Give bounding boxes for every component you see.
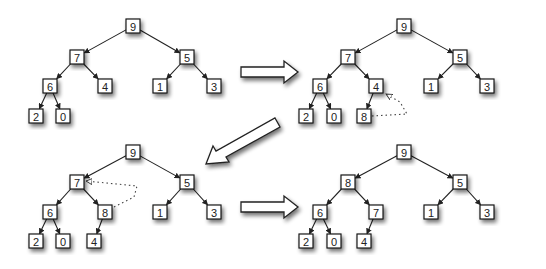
heap-node: 3 <box>207 79 221 93</box>
heap-node: 0 <box>327 234 341 248</box>
arrow-1-to-2-arrow-icon <box>241 61 298 83</box>
node-value: 6 <box>47 81 53 93</box>
heap-node: 4 <box>98 79 112 93</box>
heap-node: 9 <box>126 145 140 159</box>
tree-edge <box>323 219 330 234</box>
heap-node: 7 <box>70 50 84 64</box>
node-value: 1 <box>428 81 434 93</box>
tree-edge <box>466 189 480 205</box>
heap-node: 3 <box>207 205 221 219</box>
heap-node: 1 <box>424 205 438 219</box>
node-value: 9 <box>401 21 407 33</box>
tree-edge <box>467 64 481 79</box>
node-value: 5 <box>457 52 463 64</box>
heap-node: 1 <box>424 79 438 93</box>
node-value: 1 <box>157 81 163 93</box>
tree-edge <box>140 156 180 178</box>
node-value: 8 <box>102 207 108 219</box>
node-value: 4 <box>102 81 108 93</box>
tree-edge <box>355 156 397 178</box>
heap-node: 7 <box>341 50 355 64</box>
tree-edge <box>323 93 330 109</box>
node-value: 5 <box>457 177 463 189</box>
tree-edge <box>57 189 71 205</box>
node-value: 2 <box>33 236 39 248</box>
node-value: 3 <box>484 81 490 93</box>
tree-edge <box>193 189 207 205</box>
tree-edge <box>167 64 181 79</box>
node-value: 0 <box>60 111 66 123</box>
swap-indicator-arrow-icon <box>86 181 137 207</box>
tree-edge <box>438 64 453 79</box>
heap-node: 4 <box>369 79 383 93</box>
node-value: 0 <box>331 111 337 123</box>
node-value: 3 <box>484 207 490 219</box>
tree-edge <box>84 189 99 205</box>
arrow-3-to-4-arrow-icon <box>241 196 298 218</box>
node-value: 5 <box>184 52 190 64</box>
tree-edge <box>411 156 453 178</box>
heap-node: 1 <box>153 205 167 219</box>
heap-node: 9 <box>397 19 411 33</box>
node-value: 1 <box>428 207 434 219</box>
node-value: 0 <box>331 236 337 248</box>
node-value: 6 <box>317 207 323 219</box>
node-value: 4 <box>361 236 367 248</box>
tree-edge <box>355 64 369 79</box>
node-value: 1 <box>157 207 163 219</box>
node-value: 4 <box>91 236 97 248</box>
tree-edge <box>367 93 373 109</box>
heap-node: 1 <box>153 79 167 93</box>
node-value: 4 <box>373 81 379 93</box>
node-value: 3 <box>211 81 217 93</box>
heap-node: 2 <box>29 109 43 123</box>
tree-edge <box>310 219 317 234</box>
heap-node: 0 <box>327 109 341 123</box>
tree-edge <box>40 219 47 234</box>
tree-edge <box>39 93 46 109</box>
tree-edge <box>411 30 453 53</box>
heap-insertion-diagram: 975641320975641320897568132049856713204 <box>0 0 546 269</box>
tree-edge <box>367 219 373 234</box>
node-value: 0 <box>60 236 66 248</box>
heap-node: 4 <box>87 234 101 248</box>
node-value: 6 <box>47 207 53 219</box>
tree-edge <box>84 156 126 178</box>
tree-edge <box>57 64 71 79</box>
heap-node: 7 <box>369 205 383 219</box>
tree-edge <box>140 30 180 53</box>
heap-node: 9 <box>397 145 411 159</box>
heap-node: 0 <box>56 234 70 248</box>
tree-edge <box>327 189 342 205</box>
tree-step-4: 9856713204 <box>299 145 494 248</box>
node-value: 7 <box>373 207 379 219</box>
tree-edge <box>53 93 60 109</box>
heap-node: 6 <box>43 205 57 219</box>
tree-edge <box>438 189 453 205</box>
swap-indicator-arrow-icon <box>372 94 407 116</box>
tree-edge <box>309 93 316 109</box>
node-value: 9 <box>130 21 136 33</box>
heap-node: 5 <box>453 175 467 189</box>
tree-edge <box>167 189 181 205</box>
node-value: 2 <box>303 236 309 248</box>
tree-edge <box>97 219 103 234</box>
heap-node: 8 <box>341 175 355 189</box>
heap-node: 5 <box>453 50 467 64</box>
heap-node: 5 <box>180 175 194 189</box>
heap-node: 3 <box>480 205 494 219</box>
node-value: 3 <box>211 207 217 219</box>
tree-step-1: 975641320 <box>29 19 221 123</box>
heap-node: 7 <box>70 175 84 189</box>
heap-node: 4 <box>357 234 371 248</box>
node-value: 7 <box>74 177 80 189</box>
tree-edge <box>84 64 98 79</box>
node-value: 7 <box>74 52 80 64</box>
node-value: 9 <box>130 147 136 159</box>
heap-node: 2 <box>299 109 313 123</box>
tree-edge <box>327 64 341 79</box>
tree-edge <box>355 189 370 205</box>
tree-edge <box>355 30 397 53</box>
tree-edge <box>194 64 208 79</box>
heap-node: 3 <box>480 79 494 93</box>
